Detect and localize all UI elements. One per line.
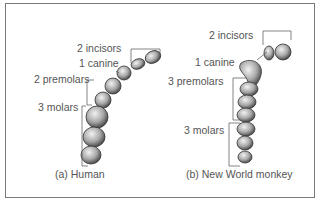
monkey-molar-icon <box>238 151 252 163</box>
human-premolar-icon <box>95 92 111 108</box>
monkey-molar-icon <box>237 136 253 150</box>
human-incisors-label: 2 incisors <box>77 42 121 54</box>
human-molar-icon <box>83 127 105 147</box>
human-incisor-icon <box>130 57 147 71</box>
human-premolars-label: 2 premolars <box>34 73 89 85</box>
human-molar-icon <box>81 146 101 164</box>
human-canine-icon <box>117 66 131 80</box>
monkey-premolar-icon <box>238 95 256 109</box>
human-canine-label: 1 canine <box>79 57 119 69</box>
human-molar-icon <box>86 106 108 128</box>
monkey-tooth-row <box>237 44 291 163</box>
monkey-premolar-icon <box>240 82 258 96</box>
monkey-incisors-label: 2 incisors <box>209 29 253 41</box>
human-premolar-icon <box>105 78 121 94</box>
monkey-molar-icon <box>237 122 255 136</box>
monkey-premolars-label: 3 premolars <box>168 75 223 87</box>
monkey-caption: (b) New World monkey <box>186 168 293 180</box>
human-molars-label: 3 molars <box>38 101 78 113</box>
human-caption: (a) Human <box>55 168 105 180</box>
monkey-molars-label: 3 molars <box>184 124 224 136</box>
monkey-incisor-icon <box>275 44 291 60</box>
monkey-canine-label: 1 canine <box>195 56 235 68</box>
